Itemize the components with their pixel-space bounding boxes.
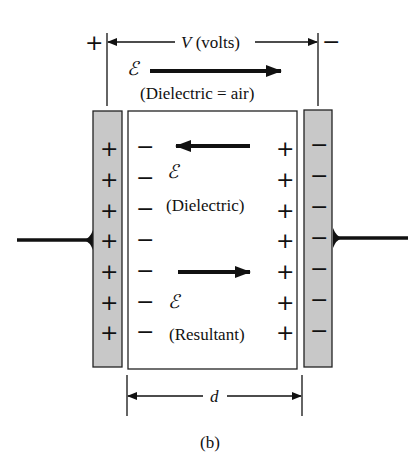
- dielectric-left-surface-charges: − − − − − − −: [136, 134, 154, 344]
- resultant-field-label: (Resultant): [169, 325, 245, 344]
- right-plate-charges: − − − − − − −: [310, 132, 328, 343]
- source-plus-sign: +: [85, 30, 103, 55]
- plate-plus: +: [100, 198, 118, 223]
- plate-minus: −: [310, 256, 328, 281]
- surface-minus: −: [136, 319, 154, 344]
- surface-plus: +: [276, 320, 294, 345]
- dielectric-right-surface-charges: + + + + + + +: [276, 136, 294, 345]
- surface-plus: +: [276, 259, 294, 284]
- plate-minus: −: [310, 132, 328, 157]
- left-plate: + + + + + + +: [93, 111, 122, 367]
- surface-minus: −: [136, 134, 154, 159]
- surface-plus: +: [276, 136, 294, 161]
- surface-minus: −: [136, 258, 154, 283]
- plate-plus: +: [100, 320, 118, 345]
- field-symbol-dielectric: ℰ: [167, 160, 181, 182]
- plate-plus: +: [100, 290, 118, 315]
- field-symbol-resultant: ℰ: [168, 290, 182, 312]
- right-plate: − − − − − − −: [304, 110, 332, 367]
- distance-label: d: [210, 387, 219, 406]
- surface-minus: −: [136, 289, 154, 314]
- plate-plus: +: [100, 136, 118, 161]
- left-wire-junction: [84, 230, 93, 250]
- field-symbol-air: ℰ: [127, 57, 141, 79]
- surface-plus: +: [276, 167, 294, 192]
- surface-minus: −: [136, 227, 154, 252]
- right-wire-junction: [333, 228, 342, 248]
- plate-minus: −: [310, 318, 328, 343]
- diagram-canvas: V (volts) + − ℰ (Dielectric = air) + + +…: [0, 0, 412, 463]
- surface-minus: −: [136, 165, 154, 190]
- surface-plus: +: [276, 198, 294, 223]
- surface-plus: +: [276, 290, 294, 315]
- plate-plus: +: [100, 259, 118, 284]
- plate-minus: −: [310, 225, 328, 250]
- plate-plus: +: [100, 167, 118, 192]
- surface-minus: −: [136, 196, 154, 221]
- plate-minus: −: [310, 287, 328, 312]
- air-field-label: (Dielectric = air): [140, 84, 254, 103]
- plate-minus: −: [310, 163, 328, 188]
- surface-plus: +: [276, 228, 294, 253]
- plate-plus: +: [100, 228, 118, 253]
- dielectric-slab: − − − − − − − + + + + + + + ℰ (Die: [128, 111, 297, 369]
- voltage-label: V (volts): [181, 33, 240, 52]
- distance-dimension: d: [127, 375, 302, 416]
- capacitor-dielectric-diagram: V (volts) + − ℰ (Dielectric = air) + + +…: [0, 0, 412, 463]
- dielectric-field-label: (Dielectric): [166, 196, 244, 215]
- left-plate-charges: + + + + + + +: [100, 136, 118, 345]
- source-minus-sign: −: [322, 29, 340, 54]
- plate-minus: −: [310, 194, 328, 219]
- air-field-group: ℰ (Dielectric = air): [127, 57, 281, 103]
- figure-caption: (b): [200, 433, 220, 452]
